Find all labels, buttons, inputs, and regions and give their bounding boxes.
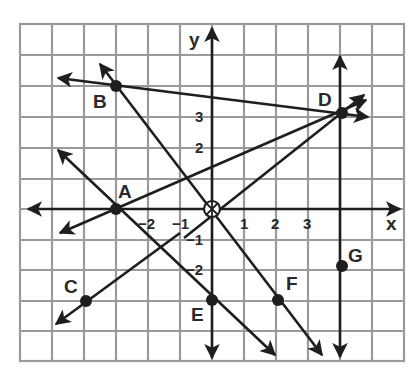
x-tick-neg2: −2 [138,215,155,232]
label-A: A [118,181,132,202]
point-F [272,294,284,306]
x-tick-neg1: −1 [172,215,189,232]
y-tick-neg1: −1 [186,231,203,248]
y-tick-3: 3 [195,108,203,125]
origin-marker [204,201,220,217]
label-G: G [348,245,363,266]
point-A [110,203,122,215]
label-C: C [64,276,78,297]
x-tick-3: 3 [303,215,311,232]
coordinate-plane: A B C D E F G x y −2 −1 1 2 3 3 2 −1 −2 [0,0,417,368]
point-D [336,107,348,119]
x-axis-label: x [386,213,397,234]
x-tick-2: 2 [271,215,279,232]
y-tick-neg2: −2 [186,261,203,278]
y-axis-label: y [189,29,200,50]
point-G [336,260,348,272]
point-C [80,295,92,307]
point-E [206,294,218,306]
label-E: E [191,304,204,325]
x-tick-1: 1 [240,215,248,232]
label-D: D [318,89,332,110]
y-tick-2: 2 [195,139,203,156]
point-B [110,80,122,92]
label-F: F [286,273,298,294]
label-B: B [93,91,107,112]
